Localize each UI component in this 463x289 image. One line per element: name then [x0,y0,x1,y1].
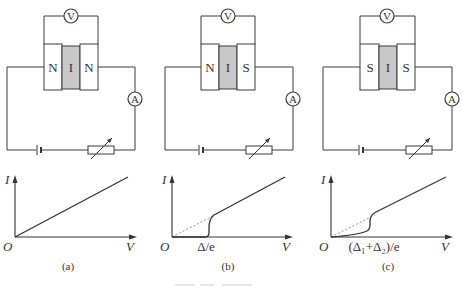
voltmeter-label: V [383,10,391,22]
panel-c-graph: I O V (Δ₁+Δ₂)/e (c) [319,172,453,273]
panel-caption: (a) [62,260,75,273]
ammeter-label: A [289,93,297,105]
right-layer-label: N [84,60,94,75]
panel-caption: (b) [222,260,235,273]
panel-c-circuit: V S I S A [323,9,459,159]
y-axis-label: I [4,172,10,187]
iv-curve-a [15,177,128,237]
left-layer-label: N [48,60,58,75]
origin-label: O [319,239,329,254]
left-layer-label: N [205,60,215,75]
x-axis-label: V [441,239,451,254]
voltmeter-label: V [224,10,232,22]
panel-a-circuit: V N I N A [7,9,142,159]
panel-b-graph: I O V Δ/e (b) [160,172,293,273]
faint-figure-caption [175,284,252,286]
rheostat-icon [88,146,114,154]
panel-b-circuit: V N I S A [165,9,300,159]
left-layer-label: S [366,60,373,75]
origin-label: O [160,239,170,254]
ammeter-label: A [131,93,139,105]
insulator-label: I [386,60,390,75]
origin-label: O [3,239,13,254]
tunneling-junction-figure: V N I N A I O V (a) V [0,0,463,289]
threshold-label: (Δ₁+Δ₂)/e [348,239,399,254]
panel-a-graph: I O V (a) [3,172,137,273]
right-layer-label: S [402,60,409,75]
insulator-label: I [226,60,230,75]
voltmeter-label: V [67,10,75,22]
ammeter-label: A [448,93,456,105]
iv-curve-c [331,177,446,237]
insulator-label: I [69,60,73,75]
y-axis-label: I [161,172,167,187]
iv-curve-b [172,177,285,237]
panel-caption: (c) [382,260,395,273]
x-axis-label: V [282,239,292,254]
rheostat-icon [246,146,272,154]
right-layer-label: S [242,60,249,75]
rheostat-icon [406,146,432,154]
x-axis-label: V [126,239,136,254]
threshold-label: Δ/e [197,239,215,254]
y-axis-label: I [320,172,326,187]
